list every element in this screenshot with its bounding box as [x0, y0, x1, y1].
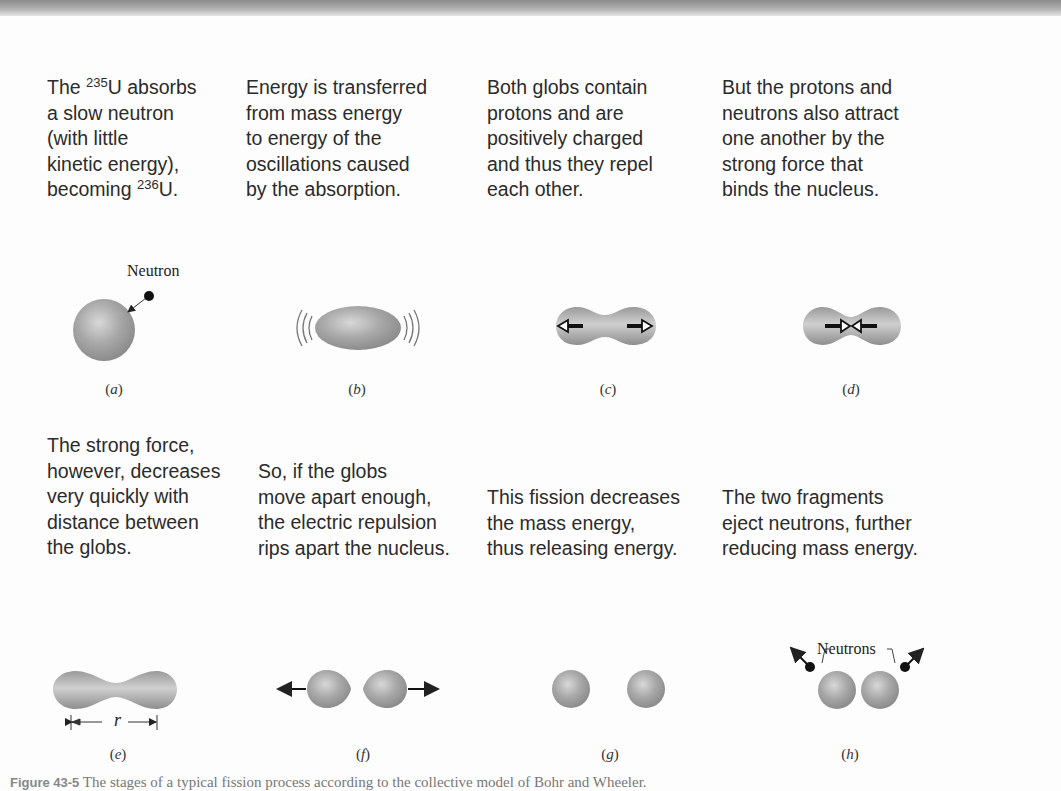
panel-c-repelling-globs: [555, 303, 665, 353]
deformed-nucleus: [315, 306, 401, 350]
panel-g-description: This fission decreases the mass energy, …: [487, 485, 680, 562]
fragment-right: [627, 670, 665, 708]
panel-f-description: So, if the globs move apart enough, the …: [258, 459, 450, 561]
panel-a-description: The 235U absorbs a slow neutron (with li…: [47, 75, 197, 203]
neutron-right: [900, 662, 910, 672]
vibration-lines-right: [404, 310, 419, 346]
figure-caption: Figure 43-5 The stages of a typical fiss…: [10, 774, 647, 791]
figure-number: Figure 43-5: [10, 775, 79, 790]
panel-b-description: Energy is transferred from mass energy t…: [246, 75, 427, 203]
fragment-left: [818, 671, 856, 709]
neutron-arrow-left: [791, 648, 808, 665]
panel-g-label: (g): [580, 746, 640, 763]
panel-h-description: The two fragments eject neutrons, furthe…: [722, 485, 918, 562]
panel-f-label: (f): [333, 746, 393, 763]
vibration-lines-left: [297, 310, 312, 346]
neutron-annotation: Neutron: [127, 262, 179, 280]
neutron-dot: [144, 291, 154, 301]
uranium-nucleus: [73, 299, 135, 361]
panel-f-separating-fragments: [272, 668, 452, 718]
panel-b-oscillating-nucleus: [288, 300, 428, 360]
panel-h-label: (h): [820, 746, 880, 763]
fragment-right: [363, 670, 407, 708]
panel-e-description: The strong force, however, decreases ver…: [47, 433, 220, 561]
panel-c-label: (c): [578, 381, 638, 398]
neutron-arrow: [128, 298, 146, 312]
distance-r-label: r: [114, 710, 121, 731]
fragment-left: [307, 670, 351, 708]
panel-d-attracting-globs: [803, 303, 903, 353]
panel-c-description: Both globs contain protons and are posit…: [487, 75, 653, 203]
panel-d-description: But the protons and neutrons also attrac…: [722, 75, 899, 203]
caption-text: The stages of a typical fission process …: [79, 774, 646, 790]
top-border-band: [0, 0, 1061, 16]
neutrons-annotation: Neutrons: [817, 640, 876, 658]
panel-a-nucleus-diagram: [70, 290, 190, 390]
neutron-left: [805, 662, 815, 672]
panel-d-label: (d): [821, 381, 881, 398]
panel-a-label: (a): [84, 381, 144, 398]
panel-g-fission-fragments: [550, 668, 680, 713]
fragment-right: [861, 671, 899, 709]
panel-b-label: (b): [327, 381, 387, 398]
dumbbell-nucleus: [53, 671, 177, 709]
panel-e-label: (e): [88, 746, 148, 763]
fragment-left: [552, 670, 590, 708]
neutron-arrow-right: [907, 649, 923, 665]
